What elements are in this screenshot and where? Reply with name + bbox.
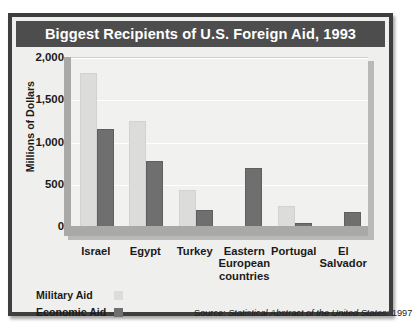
legend-item-economic: Economic Aid [36,306,123,318]
bar-group [319,58,369,227]
bar-economic-aid [245,168,262,227]
plot-frame [64,57,374,240]
y-axis-title: Millions of Dollars [24,81,36,172]
legend-swatch-economic [114,308,123,317]
bar-group [71,58,121,227]
bar-group [121,58,171,227]
bar-group [269,58,319,227]
bar-economic-aid [196,210,213,227]
plot-left-wall [64,57,71,236]
legend-label-military: Military Aid [36,289,114,301]
chart-legend: Military Aid Economic Aid [36,289,123,323]
bar-economic-aid [344,212,361,227]
chart-title-bar: Biggest Recipients of U.S. Foreign Aid, … [16,21,385,47]
bar-military-aid [80,73,97,227]
bar-economic-aid [97,129,114,227]
source-year: : 1997 [387,308,412,318]
bar-group [220,58,270,227]
legend-item-military: Military Aid [36,289,123,301]
chart-figure: Biggest Recipients of U.S. Foreign Aid, … [8,13,393,316]
legend-swatch-military [114,291,123,300]
legend-label-economic: Economic Aid [36,306,114,318]
plot-area [71,57,368,227]
page-title: Biggest Recipients of U.S. Foreign Aid, … [45,26,356,42]
y-tick-label: 2,000 [35,51,64,63]
source-note: Source: Statistical Abstract of the Unit… [194,308,412,318]
bar-military-aid [278,206,295,227]
bar-group [170,58,220,227]
plot-floor [64,226,368,236]
x-axis-labels: IsraelEgyptTurkeyEasternEuropeancountrie… [71,245,368,287]
bar-military-aid [179,190,196,227]
source-label: Source: [194,308,226,318]
bar-economic-aid [146,161,163,227]
bar-military-aid [129,121,146,227]
y-tick-label: 1,500 [35,93,64,105]
y-tick-label: 1,000 [35,136,64,148]
source-title: Statistical Abstract of the United State… [228,308,386,318]
x-axis-label: ElSalvador [313,245,375,270]
y-tick-label: 500 [45,178,64,190]
